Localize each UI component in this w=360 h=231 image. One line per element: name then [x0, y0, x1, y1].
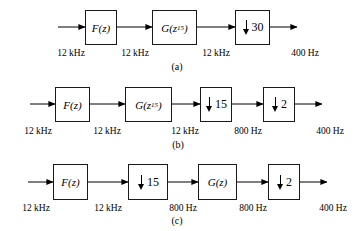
row-a-rate-out: 400 Hz — [291, 48, 319, 58]
row-c-downsampler-15-label: 15 — [137, 175, 159, 190]
row-a-filter-f-label: F(z) — [92, 22, 110, 34]
row-a-filter-g-z15-base: G(z — [161, 22, 177, 34]
row-c-rate-in: 12 kHz — [22, 203, 50, 213]
row-b-filter-f-label: F(z) — [63, 99, 81, 111]
row-c-filter-f: F(z) — [53, 164, 88, 200]
row-b-downsampler-2-factor: 2 — [281, 97, 287, 112]
row-b-downsampler-15-factor: 15 — [215, 97, 227, 112]
row-b-rate-3: 800 Hz — [234, 126, 262, 136]
row-c-downsampler-2: 2 — [268, 164, 300, 200]
row-c-rate-3: 800 Hz — [239, 203, 267, 213]
row-c-rate-2: 800 Hz — [169, 203, 197, 213]
row-c-downsampler-2-label: 2 — [276, 175, 292, 190]
row-b-filter-f: F(z) — [55, 87, 90, 122]
row-c-rate-out: 400 Hz — [319, 203, 347, 213]
row-b-rate-out: 400 Hz — [316, 126, 344, 136]
down-arrow-icon — [242, 20, 251, 35]
down-arrow-icon — [205, 97, 214, 112]
row-a-filter-f: F(z) — [85, 10, 117, 45]
row-b-filter-g-z15-base: G(z — [135, 99, 151, 111]
down-arrow-icon — [276, 175, 285, 190]
row-c-rate-1: 12 kHz — [94, 203, 122, 213]
row-b-downsampler-15-label: 15 — [205, 97, 227, 112]
row-a-filter-g-z15: G(z15) — [152, 10, 197, 45]
row-b-caption: (b) — [172, 139, 184, 150]
row-b-downsampler-2-label: 2 — [271, 97, 287, 112]
down-arrow-icon — [271, 97, 280, 112]
row-a-rate-1: 12 kHz — [121, 48, 149, 58]
row-a-downsampler-30-label: 30 — [242, 20, 264, 35]
row-a-rate-in: 12 kHz — [57, 48, 85, 58]
row-a-caption: (a) — [171, 61, 182, 72]
row-a-downsampler-30-factor: 30 — [252, 20, 264, 35]
down-arrow-icon — [137, 175, 146, 190]
row-c-downsampler-15: 15 — [128, 164, 168, 200]
row-b-filter-g-z15-tail: ) — [158, 99, 162, 111]
row-b-filter-g-z15: G(z15) — [125, 87, 172, 122]
row-c-filter-g-label: G(z) — [208, 176, 228, 188]
row-a-rate-2: 12 kHz — [202, 48, 230, 58]
row-c-filter-f-label: F(z) — [61, 176, 79, 188]
row-a-downsampler-30: 30 — [235, 10, 270, 45]
row-b-downsampler-15: 15 — [200, 87, 232, 122]
row-b-rate-1: 12 kHz — [93, 126, 121, 136]
block-diagram-figure: F(z) G(z15) 30 12 kHz 12 kHz 12 kHz 400 … — [0, 0, 360, 231]
row-c-caption: (c) — [171, 215, 182, 226]
row-c-downsampler-15-factor: 15 — [147, 175, 159, 190]
row-a-filter-g-z15-tail: ) — [184, 22, 188, 34]
row-b-rate-2: 12 kHz — [171, 126, 199, 136]
row-c-downsampler-2-factor: 2 — [286, 175, 292, 190]
row-b-rate-in: 12 kHz — [24, 126, 52, 136]
row-c-filter-g: G(z) — [198, 164, 237, 200]
row-b-downsampler-2: 2 — [263, 87, 295, 122]
